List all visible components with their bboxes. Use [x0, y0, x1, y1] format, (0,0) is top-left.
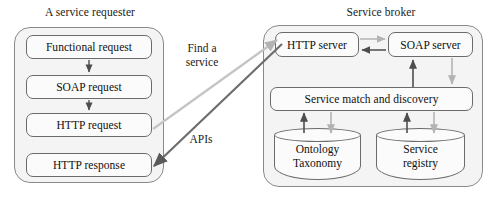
store-label: Service registry [376, 142, 465, 170]
diagram-canvas: A service requester Functional request S… [0, 0, 493, 202]
box-http-server: HTTP server [275, 32, 359, 57]
label-find-a-service-line1: Find a [172, 41, 232, 55]
store-label: Ontology Taxonomy [274, 142, 361, 170]
box-soap-server: SOAP server [388, 32, 473, 57]
store-label-line1: Service [376, 142, 465, 156]
broker-title: Service broker [303, 6, 459, 18]
box-soap-request: SOAP request [26, 75, 152, 99]
store-label-line2: registry [376, 156, 465, 170]
cylinder-top [376, 128, 465, 142]
label-find-a-service-line2: service [172, 55, 232, 69]
store-label-line2: Taxonomy [274, 156, 361, 170]
store-service-registry: Service registry [376, 128, 465, 180]
cylinder-top [274, 128, 361, 142]
store-ontology-taxonomy: Ontology Taxonomy [274, 128, 361, 180]
requester-title: A service requester [14, 6, 166, 18]
box-service-match-and-discovery: Service match and discovery [270, 87, 473, 111]
box-http-response: HTTP response [26, 153, 152, 177]
label-apis: APIs [178, 132, 224, 146]
store-label-line1: Ontology [274, 142, 361, 156]
box-http-request: HTTP request [26, 113, 152, 137]
box-functional-request: Functional request [26, 35, 152, 59]
label-find-a-service: Find a service [172, 41, 232, 69]
